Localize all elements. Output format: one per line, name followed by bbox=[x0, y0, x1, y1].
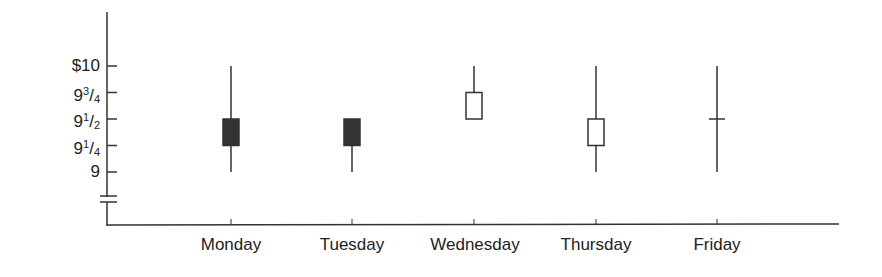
candle-body-thursday bbox=[588, 119, 604, 146]
x-axis-line bbox=[107, 224, 839, 225]
y-tick-label-9-1-2: 91/2 bbox=[40, 107, 100, 135]
y-tick-label-10: $10 bbox=[40, 56, 100, 76]
x-label-tuesday: Tuesday bbox=[292, 235, 412, 255]
candle-body-monday bbox=[223, 119, 239, 146]
x-label-thursday: Thursday bbox=[536, 235, 656, 255]
candle-body-wednesday bbox=[466, 93, 482, 120]
y-tick-label-9-1-4: 91/4 bbox=[40, 134, 100, 162]
x-label-monday: Monday bbox=[171, 235, 291, 255]
x-label-wednesday: Wednesday bbox=[415, 235, 535, 255]
x-label-friday: Friday bbox=[657, 235, 777, 255]
candle-body-tuesday bbox=[344, 119, 360, 146]
y-tick-label-9-3-4: 93/4 bbox=[40, 81, 100, 109]
y-tick-label-9: 9 bbox=[40, 162, 100, 182]
